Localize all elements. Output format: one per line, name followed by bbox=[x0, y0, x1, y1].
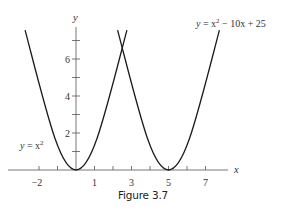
y-tick-label-2: 2 bbox=[65, 128, 70, 139]
x-tick-label-3: 3 bbox=[129, 177, 134, 188]
x-ticks bbox=[39, 166, 206, 170]
curve-y-equals-x-squared-minus-10x-plus-25 bbox=[118, 30, 220, 170]
y-tick-label-4: 4 bbox=[65, 91, 70, 102]
figure-3-7-plot: −2 1 3 5 7 2 4 6 x y y = x2 y = x2 − 10x… bbox=[0, 0, 286, 210]
curve-label-x-squared-minus-10x-plus-25: y = x2 − 10x + 25 bbox=[195, 17, 266, 29]
x-tick-label-5: 5 bbox=[166, 177, 171, 188]
x-tick-label-1: 1 bbox=[92, 177, 97, 188]
x-axis-label: x bbox=[233, 164, 239, 175]
x-tick-label-7: 7 bbox=[203, 177, 208, 188]
figure-caption: Figure 3.7 bbox=[0, 189, 286, 201]
x-tick-label-neg2: −2 bbox=[32, 177, 43, 188]
y-tick-label-6: 6 bbox=[65, 54, 70, 65]
curve-label-x-squared: y = x2 bbox=[19, 139, 44, 151]
y-axis-label: y bbox=[72, 12, 78, 23]
